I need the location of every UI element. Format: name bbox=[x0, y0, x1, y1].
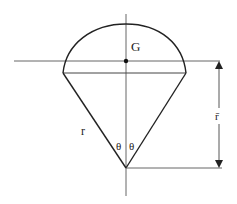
radius-left bbox=[63, 73, 126, 168]
label-theta-left: θ bbox=[116, 140, 121, 152]
cap-arc bbox=[63, 24, 186, 73]
label-r-bar: r̄ bbox=[215, 110, 219, 122]
sector-centroid-diagram: G r θ θ r̄ bbox=[0, 0, 237, 204]
arrow-head-down-icon bbox=[215, 160, 223, 168]
label-centroid-g: G bbox=[131, 39, 140, 54]
centroid-point bbox=[124, 59, 128, 63]
arrow-head-up-icon bbox=[215, 61, 223, 69]
label-theta-right: θ bbox=[129, 140, 134, 152]
radius-right bbox=[126, 73, 186, 168]
label-radius: r bbox=[81, 124, 85, 138]
